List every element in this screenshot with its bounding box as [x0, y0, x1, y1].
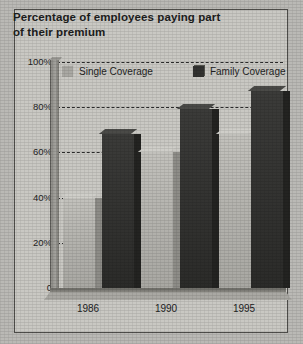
chart-page: Percentage of employees paying part of t…	[0, 0, 303, 344]
chart-title-line-2: of their premium	[13, 25, 257, 40]
legend-label-single-coverage: Single Coverage	[79, 66, 153, 77]
legend-item-family-coverage: Family Coverage	[193, 66, 286, 77]
figure-frame	[14, 9, 288, 333]
family-coverage-swatch-icon	[193, 66, 204, 77]
legend-item-single-coverage: Single Coverage	[62, 66, 153, 77]
chart-title-line-1: Percentage of employees paying part	[13, 11, 220, 23]
chart-legend: Single Coverage Family Coverage	[62, 66, 286, 77]
single-coverage-swatch-icon	[62, 66, 73, 77]
chart-title: Percentage of employees paying part of t…	[13, 10, 257, 40]
legend-label-family-coverage: Family Coverage	[210, 66, 286, 77]
